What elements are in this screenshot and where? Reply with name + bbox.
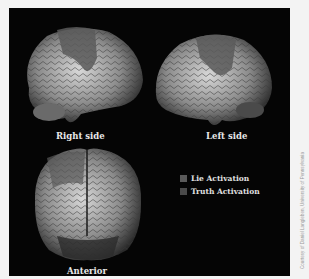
- image-credit: Courtesy of Daniel Langleben, University…: [300, 152, 305, 269]
- legend-item-lie: Lie Activation: [180, 172, 260, 185]
- figure-panel: Right side Left side Anterior Lie Activa…: [9, 8, 290, 276]
- legend-label-truth: Truth Activation: [191, 187, 260, 196]
- legend-label-lie: Lie Activation: [191, 174, 249, 183]
- brain-anterior-image: [27, 144, 149, 264]
- legend-item-truth: Truth Activation: [180, 185, 260, 198]
- brain-right-side-image: [17, 18, 147, 130]
- panel-label-right-side: Right side: [56, 131, 105, 141]
- legend: Lie Activation Truth Activation: [180, 172, 260, 198]
- panel-label-anterior: Anterior: [67, 266, 107, 276]
- legend-swatch-truth: [180, 188, 187, 195]
- brain-left-side-image: [152, 24, 277, 129]
- panel-label-left-side: Left side: [206, 131, 247, 141]
- legend-swatch-lie: [180, 175, 187, 182]
